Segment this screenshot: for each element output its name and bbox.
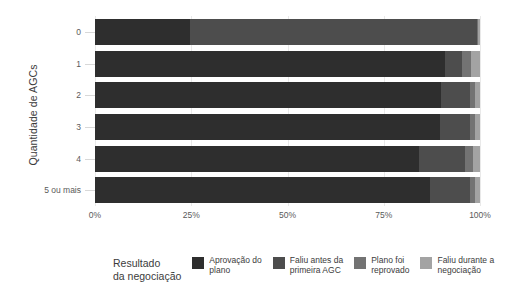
x-axis-tick-labels: 0%25%50%75%100% — [95, 210, 480, 224]
legend-swatch-icon — [354, 257, 366, 269]
bar-series-container — [95, 16, 480, 206]
y-tick-label: 2 — [76, 89, 81, 101]
legend-title-line-1: Resultado — [113, 257, 181, 270]
x-tick-label: 50% — [279, 210, 296, 220]
bar-segment[interactable] — [95, 146, 419, 172]
bar-row[interactable] — [95, 51, 480, 77]
bar-segment[interactable] — [190, 19, 477, 45]
y-tick-mark — [85, 190, 95, 191]
bar-row[interactable] — [95, 177, 480, 203]
plot-area — [95, 16, 480, 206]
x-tick-label: 100% — [469, 210, 491, 220]
bar-row[interactable] — [95, 19, 480, 45]
bar-segment[interactable] — [475, 82, 480, 108]
bar-segment[interactable] — [430, 177, 470, 203]
legend-title: Resultado da negociação — [113, 256, 181, 282]
y-tick-mark — [85, 127, 95, 128]
legend: Resultado da negociação Aprovação do pla… — [113, 256, 505, 282]
y-tick-mark — [85, 64, 95, 65]
bar-segment[interactable] — [419, 146, 465, 172]
legend-swatch-icon — [273, 257, 285, 269]
y-tick-label: 4 — [76, 153, 81, 165]
y-tick-label: 5 ou mais — [44, 184, 81, 196]
x-tick-label: 75% — [375, 210, 392, 220]
x-tick-label: 0% — [89, 210, 101, 220]
bar-segment[interactable] — [478, 19, 480, 45]
bar-segment[interactable] — [471, 51, 480, 77]
bar-segment[interactable] — [473, 146, 480, 172]
bar-segment[interactable] — [475, 114, 480, 140]
legend-item[interactable]: Plano foi reprovado — [354, 256, 409, 275]
y-tick-mark — [85, 32, 95, 33]
bar-segment[interactable] — [465, 146, 473, 172]
bar-segment[interactable] — [475, 177, 480, 203]
y-tick-label: 1 — [76, 58, 81, 70]
y-tick-mark — [85, 159, 95, 160]
bar-segment[interactable] — [95, 82, 441, 108]
bar-segment[interactable] — [95, 177, 430, 203]
bar-row[interactable] — [95, 82, 480, 108]
x-tick-label: 25% — [183, 210, 200, 220]
gridline-100 — [480, 16, 481, 206]
legend-item[interactable]: Aprovação do plano — [192, 256, 261, 275]
bar-segment[interactable] — [462, 51, 470, 77]
bar-segment[interactable] — [95, 114, 440, 140]
legend-items: Aprovação do planoFaliu antes da primeir… — [192, 256, 505, 275]
bar-row[interactable] — [95, 114, 480, 140]
bar-segment[interactable] — [440, 114, 470, 140]
bar-segment[interactable] — [445, 51, 462, 77]
y-tick-mark — [85, 95, 95, 96]
legend-title-line-2: da negociação — [113, 270, 181, 283]
y-axis-tick-labels: 012345 ou mais — [0, 16, 95, 206]
legend-label: Faliu antes da primeira AGC — [290, 256, 343, 275]
bar-segment[interactable] — [95, 19, 190, 45]
legend-label: Aprovação do plano — [209, 256, 261, 275]
legend-item[interactable]: Faliu durante a negociação — [420, 256, 494, 275]
legend-swatch-icon — [420, 257, 432, 269]
legend-label: Plano foi reprovado — [371, 256, 409, 275]
y-tick-label: 0 — [76, 26, 81, 38]
y-tick-label: 3 — [76, 121, 81, 133]
stacked-bar-chart: Quantidade de AGCs 012345 ou mais 0%25%5… — [0, 0, 521, 300]
legend-label: Faliu durante a negociação — [437, 256, 494, 275]
legend-item[interactable]: Faliu antes da primeira AGC — [273, 256, 343, 275]
legend-swatch-icon — [192, 257, 204, 269]
bar-row[interactable] — [95, 146, 480, 172]
bar-segment[interactable] — [95, 51, 445, 77]
bar-segment[interactable] — [441, 82, 470, 108]
